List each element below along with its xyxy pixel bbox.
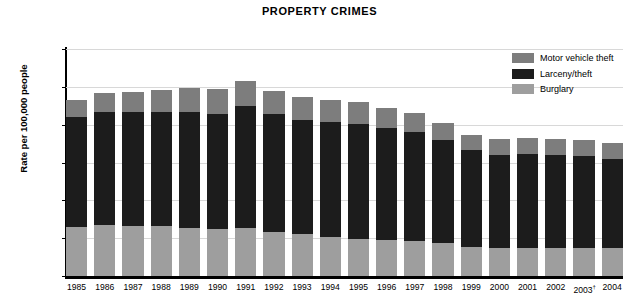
bar-segment <box>235 228 256 276</box>
bar-segment <box>573 140 594 156</box>
bar-column <box>432 49 453 276</box>
bar-segment <box>517 154 538 248</box>
bar-segment <box>94 93 115 112</box>
bar-column <box>292 49 313 276</box>
bar-column <box>461 49 482 276</box>
x-axis-tick-label: 2001 <box>517 281 538 295</box>
bar-segment <box>348 102 369 123</box>
x-axis-tick-label: 1998 <box>432 281 453 295</box>
chart-legend: Motor vehicle theftLarceny/theftBurglary <box>512 52 636 99</box>
bar-segment <box>320 122 341 237</box>
x-axis-tick-label: 1986 <box>94 281 115 295</box>
footnote-marker: † <box>593 284 596 290</box>
x-axis-tick-label: 1994 <box>320 281 341 295</box>
bar-segment <box>151 90 172 112</box>
bar-segment <box>94 225 115 276</box>
bar-segment <box>122 112 143 226</box>
bar-segment <box>122 226 143 276</box>
bar-segment <box>179 88 200 112</box>
legend-swatch <box>512 69 534 79</box>
bar-segment <box>461 150 482 246</box>
bar-segment <box>432 140 453 243</box>
x-axis-tick-label: 2003† <box>573 281 594 295</box>
bar-segment <box>66 227 87 276</box>
property-crimes-chart: PROPERTY CRIMES Rate per 100,000 people … <box>0 0 639 297</box>
x-axis-line <box>65 276 623 279</box>
bar-segment <box>545 248 566 276</box>
x-axis-tick-label: 1997 <box>404 281 425 295</box>
bar-column <box>489 49 510 276</box>
bar-column <box>263 49 284 276</box>
bar-column <box>404 49 425 276</box>
x-axis-tick-label: 2002 <box>545 281 566 295</box>
bar-segment <box>320 100 341 122</box>
y-axis-tick <box>62 276 66 277</box>
bar-column <box>207 49 228 276</box>
bar-segment <box>404 241 425 276</box>
legend-label: Burglary <box>540 84 574 94</box>
legend-item: Motor vehicle theft <box>512 52 636 64</box>
bar-segment <box>404 113 425 132</box>
bar-segment <box>122 92 143 112</box>
bar-segment <box>151 112 172 227</box>
bar-segment <box>207 114 228 229</box>
x-axis-tick-label: 1992 <box>263 281 284 295</box>
bar-segment <box>602 159 623 248</box>
bar-column <box>235 49 256 276</box>
bar-segment <box>66 100 87 117</box>
legend-item: Burglary <box>512 83 636 95</box>
bar-segment <box>179 112 200 227</box>
bar-segment <box>207 229 228 276</box>
bar-segment <box>517 138 538 154</box>
bar-column <box>122 49 143 276</box>
x-axis-tick-label: 1993 <box>292 281 313 295</box>
legend-label: Larceny/theft <box>540 69 592 79</box>
y-axis-title: Rate per 100,000 people <box>18 19 29 219</box>
bar-segment <box>376 240 397 276</box>
bar-column <box>376 49 397 276</box>
bar-column <box>94 49 115 276</box>
x-axis-tick-label: 1988 <box>151 281 172 295</box>
bar-segment <box>348 239 369 276</box>
legend-swatch <box>512 53 534 63</box>
x-axis-tick-label: 1989 <box>179 281 200 295</box>
bar-segment <box>545 155 566 248</box>
bar-segment <box>66 117 87 227</box>
bar-segment <box>602 248 623 276</box>
x-axis-tick-label: 1995 <box>348 281 369 295</box>
bar-segment <box>432 243 453 276</box>
bar-segment <box>235 106 256 228</box>
bar-column <box>179 49 200 276</box>
x-axis-tick-label: 1996 <box>376 281 397 295</box>
bar-segment <box>573 248 594 276</box>
x-axis-tick-label: 2004 <box>602 281 623 295</box>
bar-column <box>66 49 87 276</box>
bar-segment <box>348 124 369 239</box>
bar-column <box>320 49 341 276</box>
bar-segment <box>461 135 482 151</box>
bar-segment <box>376 128 397 241</box>
bar-segment <box>545 139 566 155</box>
bar-column <box>348 49 369 276</box>
chart-title: PROPERTY CRIMES <box>0 5 639 17</box>
bar-segment <box>292 120 313 235</box>
bar-segment <box>376 108 397 128</box>
bar-segment <box>573 156 594 248</box>
x-axis-tick-label: 1985 <box>66 281 87 295</box>
legend-item: Larceny/theft <box>512 68 636 80</box>
bar-segment <box>489 155 510 249</box>
x-axis-tick-label: 1991 <box>235 281 256 295</box>
bar-segment <box>432 123 453 140</box>
bar-column <box>151 49 172 276</box>
bar-segment <box>602 143 623 159</box>
x-axis-tick-label: 1987 <box>122 281 143 295</box>
legend-label: Motor vehicle theft <box>540 53 614 63</box>
x-axis-tick-label: 1999 <box>461 281 482 295</box>
bar-segment <box>517 248 538 276</box>
x-axis-labels: 1985198619871988198919901991199219931994… <box>66 281 623 295</box>
bar-segment <box>235 81 256 106</box>
bar-segment <box>489 139 510 155</box>
bar-segment <box>263 232 284 276</box>
bar-segment <box>263 91 284 115</box>
bar-segment <box>489 248 510 276</box>
